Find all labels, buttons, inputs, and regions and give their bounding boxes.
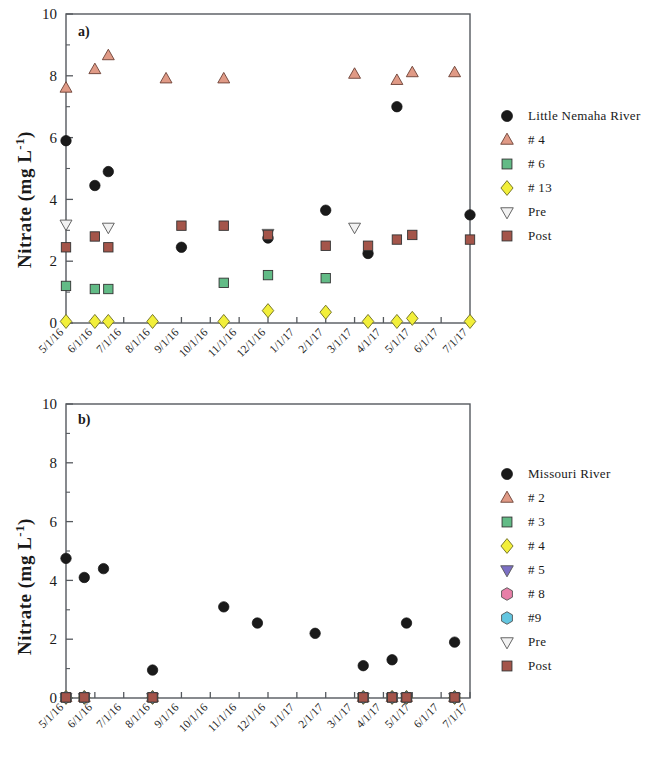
svg-text:7/1/17: 7/1/17 <box>440 326 469 355</box>
legend-b-label-0: Missouri River <box>528 466 611 482</box>
y-axis-title-text-b: Nitrate (mg L <box>14 537 35 655</box>
svg-text:7/1/16: 7/1/16 <box>94 326 123 355</box>
data-point <box>61 243 70 252</box>
legend-a-item-5[interactable]: Post <box>496 224 641 248</box>
data-point <box>408 230 417 239</box>
y-axis-title-paren-a: ) <box>14 131 35 138</box>
data-point <box>218 314 230 328</box>
data-point <box>103 314 115 328</box>
svg-text:3/1/17: 3/1/17 <box>325 701 354 730</box>
square-icon <box>496 511 518 533</box>
svg-text:4: 4 <box>50 192 58 208</box>
data-point <box>387 655 397 665</box>
data-point <box>103 166 113 176</box>
legend-b-label-5: # 8 <box>528 586 545 602</box>
data-point <box>321 241 330 250</box>
data-point <box>349 223 361 233</box>
legend-a-item-1[interactable]: # 4 <box>496 128 641 152</box>
data-point <box>219 221 228 230</box>
data-point <box>320 305 332 319</box>
svg-text:6: 6 <box>50 514 58 530</box>
triangle-down-icon <box>496 559 518 581</box>
legend-b-item-3[interactable]: # 4 <box>496 534 611 558</box>
legend-a-item-4[interactable]: Pre <box>496 200 641 224</box>
svg-text:6: 6 <box>50 130 58 146</box>
square-icon <box>496 655 518 677</box>
legend-a-item-2[interactable]: # 6 <box>496 152 641 176</box>
svg-text:8/1/16: 8/1/16 <box>123 701 152 730</box>
data-point <box>358 660 368 670</box>
legend-b-item-6[interactable]: #9 <box>496 606 611 630</box>
data-point <box>321 274 330 283</box>
legend-b-label-8: Post <box>528 658 552 674</box>
legend-b-item-0[interactable]: Missouri River <box>496 462 611 486</box>
svg-text:11/1/16: 11/1/16 <box>206 701 239 734</box>
svg-text:8: 8 <box>50 68 58 84</box>
data-point <box>464 314 476 328</box>
panel-a-legend: Little Nemaha River# 4# 6# 13PrePost <box>496 104 641 248</box>
data-point <box>102 49 114 59</box>
data-point <box>89 63 101 73</box>
legend-a-item-0[interactable]: Little Nemaha River <box>496 104 641 128</box>
svg-text:1/1/17: 1/1/17 <box>267 326 296 355</box>
data-point <box>320 205 330 215</box>
legend-b-label-6: #9 <box>528 610 542 626</box>
legend-b-item-1[interactable]: # 2 <box>496 486 611 510</box>
data-point <box>102 223 114 233</box>
svg-text:3/1/17: 3/1/17 <box>325 326 354 355</box>
data-point <box>177 221 186 230</box>
data-point <box>60 314 72 328</box>
data-point <box>79 572 89 582</box>
triangle-down-icon <box>496 631 518 653</box>
data-point <box>252 618 262 628</box>
circle-icon <box>496 463 518 485</box>
data-point <box>465 235 474 244</box>
svg-text:7/1/17: 7/1/17 <box>440 701 469 730</box>
svg-text:2: 2 <box>50 253 58 269</box>
y-axis-title-paren-b: ) <box>14 518 35 525</box>
legend-b-label-3: # 4 <box>528 538 545 554</box>
data-point <box>61 693 70 702</box>
data-point <box>310 628 320 638</box>
legend-b-item-7[interactable]: Pre <box>496 630 611 654</box>
panel-b-y-axis-title: Nitrate (mg L-1) <box>12 518 36 655</box>
y-axis-title-text-a: Nitrate (mg L <box>14 150 35 268</box>
legend-b-item-8[interactable]: Post <box>496 654 611 678</box>
panel-b-label: b) <box>78 412 90 428</box>
svg-text:6/1/16: 6/1/16 <box>65 701 94 730</box>
panel-b-legend: Missouri River# 2# 3# 4# 5# 8#9PrePost <box>496 462 611 678</box>
data-point <box>147 665 157 675</box>
data-point <box>450 693 459 702</box>
data-point <box>80 693 89 702</box>
svg-text:6/1/17: 6/1/17 <box>411 326 440 355</box>
svg-text:2/1/17: 2/1/17 <box>296 701 325 730</box>
square-icon <box>496 153 518 175</box>
data-point <box>104 243 113 252</box>
svg-text:10: 10 <box>42 6 57 22</box>
legend-a-label-0: Little Nemaha River <box>528 108 641 124</box>
legend-b-item-4[interactable]: # 5 <box>496 558 611 582</box>
legend-b-item-2[interactable]: # 3 <box>496 510 611 534</box>
data-point <box>147 314 159 328</box>
svg-text:12/1/16: 12/1/16 <box>234 326 268 360</box>
data-point <box>61 281 70 290</box>
legend-a-label-2: # 6 <box>528 156 545 172</box>
svg-text:1/1/17: 1/1/17 <box>267 701 296 730</box>
legend-b-label-4: # 5 <box>528 562 545 578</box>
data-point <box>90 232 99 241</box>
data-point <box>176 242 186 252</box>
data-point <box>391 74 403 84</box>
legend-b-item-5[interactable]: # 8 <box>496 582 611 606</box>
svg-text:4: 4 <box>50 573 58 589</box>
data-point <box>449 66 461 76</box>
legend-a-item-3[interactable]: # 13 <box>496 176 641 200</box>
svg-text:10: 10 <box>42 396 57 412</box>
triangle-up-icon <box>496 487 518 509</box>
data-point <box>363 241 372 250</box>
data-point <box>219 278 228 287</box>
svg-text:6/1/17: 6/1/17 <box>411 701 440 730</box>
data-point <box>349 68 361 78</box>
svg-text:8: 8 <box>50 455 58 471</box>
svg-text:5/1/17: 5/1/17 <box>382 326 411 355</box>
data-point <box>362 314 374 328</box>
